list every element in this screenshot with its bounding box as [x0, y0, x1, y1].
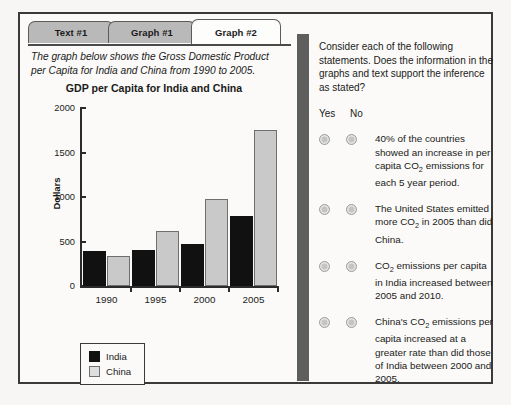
legend-label: China — [106, 364, 131, 379]
tab-bar: Text #1 Graph #1 Graph #2 — [28, 19, 293, 45]
content-frame: Text #1 Graph #1 Graph #2 The graph belo… — [18, 12, 493, 384]
question-list: 40% of the countries showed an increase … — [319, 132, 495, 385]
tab-graph-1[interactable]: Graph #1 — [108, 21, 196, 43]
question-instructions: Consider each of the following statement… — [319, 40, 495, 94]
no-header: No — [350, 108, 381, 119]
panel-divider — [297, 34, 309, 381]
bar-china-1995 — [156, 231, 179, 286]
bar-group: 2000 — [180, 108, 229, 286]
subscript: 2 — [425, 321, 429, 330]
subscript: 2 — [415, 221, 419, 230]
tab-label: Text #1 — [55, 27, 88, 38]
radio-cell-yes[interactable] — [319, 315, 346, 328]
subscript: 2 — [390, 265, 394, 274]
radio-no-q2[interactable] — [346, 204, 357, 215]
bar-china-2005 — [254, 130, 277, 286]
question-row: The United States emitted more CO2 in 20… — [319, 202, 495, 246]
radio-cell-no[interactable] — [346, 132, 373, 145]
tab-label: Graph #1 — [131, 27, 173, 38]
x-axis-tick-label: 2005 — [229, 294, 278, 305]
legend-item-india: India — [89, 349, 131, 364]
radio-yes-q4[interactable] — [319, 317, 330, 328]
x-axis-tick-mark — [179, 286, 181, 292]
chart-legend: India China — [80, 343, 145, 385]
plot-area: 05001000150020001990199520002005 — [80, 108, 278, 288]
question-row: 40% of the countries showed an increase … — [319, 132, 495, 189]
y-axis-tick-label: 500 — [37, 237, 82, 247]
radio-cell-no[interactable] — [346, 315, 373, 328]
tab-label: Graph #2 — [215, 27, 257, 38]
bar-china-1990 — [107, 256, 130, 286]
question-text-q4: China's CO2 emissions per capita increas… — [375, 315, 495, 385]
y-axis-tick-label: 0 — [37, 281, 82, 291]
legend-swatch-china-icon — [89, 366, 100, 377]
radio-cell-no[interactable] — [346, 202, 373, 215]
question-text-q2: The United States emitted more CO2 in 20… — [375, 202, 495, 246]
bar-china-2000 — [205, 199, 228, 286]
stimulus-panel: The graph below shows the Gross Domestic… — [20, 46, 293, 382]
x-axis-tick-label: 2000 — [180, 294, 229, 305]
radio-no-q1[interactable] — [346, 134, 357, 145]
y-axis-tick-label: 1500 — [37, 148, 82, 158]
question-row: CO2 emissions per capita in India increa… — [319, 259, 495, 303]
tab-text-1[interactable]: Text #1 — [28, 21, 114, 43]
x-axis-tick-mark — [228, 286, 230, 292]
radio-yes-q3[interactable] — [319, 261, 330, 272]
bar-india-2005 — [230, 216, 253, 286]
x-axis-tick-mark — [277, 286, 279, 292]
legend-swatch-india-icon — [89, 351, 100, 362]
radio-cell-yes[interactable] — [319, 132, 346, 145]
radio-yes-q2[interactable] — [319, 204, 330, 215]
answer-column-headers: Yes No — [319, 108, 495, 119]
tab-graph-2[interactable]: Graph #2 — [191, 19, 281, 44]
question-text-q1: 40% of the countries showed an increase … — [375, 132, 495, 189]
bar-group: 1995 — [131, 108, 180, 286]
legend-label: India — [106, 349, 127, 364]
gdp-bar-chart: Dollars 05001000150020001990199520002005 — [34, 102, 284, 327]
question-text-q3: CO2 emissions per capita in India increa… — [375, 259, 495, 303]
chart-title: GDP per Capita for India and China — [20, 82, 288, 94]
yes-header: Yes — [319, 108, 350, 119]
bar-india-1995 — [132, 250, 155, 286]
bar-group: 2005 — [229, 108, 278, 286]
radio-no-q4[interactable] — [346, 317, 357, 328]
question-panel: Consider each of the following statement… — [319, 40, 495, 380]
legend-item-china: China — [89, 364, 131, 379]
bar-group: 1990 — [82, 108, 131, 286]
x-axis-tick-mark — [130, 286, 132, 292]
bar-india-1990 — [83, 251, 106, 286]
radio-cell-no[interactable] — [346, 259, 373, 272]
subscript: 2 — [419, 165, 423, 174]
screenshot-root: Text #1 Graph #1 Graph #2 The graph belo… — [0, 0, 511, 405]
radio-cell-yes[interactable] — [319, 202, 346, 215]
x-axis-tick-label: 1990 — [82, 294, 131, 305]
question-row: China's CO2 emissions per capita increas… — [319, 315, 495, 385]
radio-no-q3[interactable] — [346, 261, 357, 272]
bar-india-2000 — [181, 244, 204, 286]
radio-yes-q1[interactable] — [319, 134, 330, 145]
radio-cell-yes[interactable] — [319, 259, 346, 272]
y-axis-tick-label: 1000 — [37, 192, 82, 202]
y-axis-tick-label: 2000 — [37, 103, 82, 113]
stimulus-prompt: The graph below shows the Gross Domestic… — [31, 50, 279, 78]
x-axis-tick-label: 1995 — [131, 294, 180, 305]
